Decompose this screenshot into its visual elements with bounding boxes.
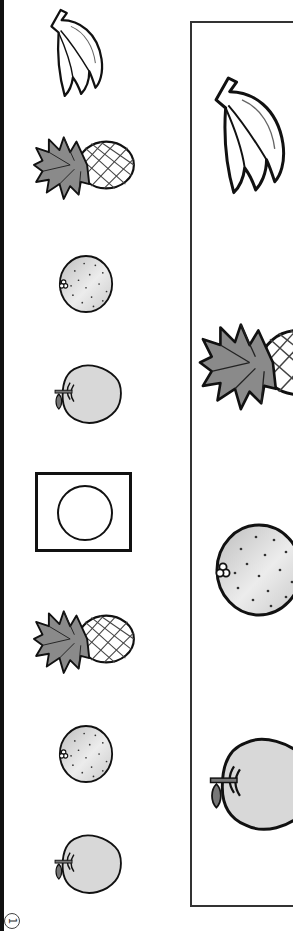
banana-icon [48, 10, 106, 100]
apple-icon [52, 362, 124, 426]
orange-icon [213, 522, 293, 618]
sequence-item-pineapple-2 [34, 607, 136, 673]
orange-icon [58, 722, 114, 786]
choice-pineapple[interactable] [200, 318, 293, 410]
orange-icon [58, 252, 114, 316]
apple-icon [199, 734, 293, 834]
pineapple-icon [34, 607, 136, 673]
pineapple-icon [200, 318, 293, 410]
banana-icon [212, 78, 293, 198]
choice-orange[interactable] [213, 522, 293, 618]
sequence-item-orange-2 [58, 722, 114, 786]
sequence-item-apple-2 [52, 832, 124, 896]
pineapple-icon [34, 133, 136, 199]
sequence-item-pineapple-1 [34, 133, 136, 199]
page-edge-bar [0, 0, 4, 931]
sequence-item-banana-1 [48, 10, 106, 100]
page-number: 1 [4, 913, 20, 929]
apple-icon [52, 832, 124, 896]
answer-blank-box[interactable] [35, 472, 132, 552]
choice-banana[interactable] [212, 78, 293, 198]
choice-apple[interactable] [199, 734, 293, 834]
circle-answer-icon [57, 485, 113, 541]
sequence-item-orange-1 [58, 252, 114, 316]
sequence-item-apple-1 [52, 362, 124, 426]
